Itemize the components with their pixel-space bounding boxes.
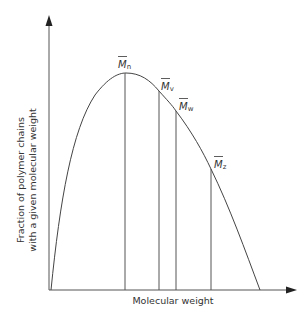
y-axis (46, 15, 53, 290)
mz-label: Mz (214, 157, 227, 172)
x-axis-arrow-icon (286, 287, 297, 294)
mn-label: Mn (118, 57, 131, 72)
svg-text:Mz: Mz (214, 159, 227, 171)
molecular-weight-distribution-diagram: Mn Mv Mw Mz Molecular weight Fraction of… (0, 0, 307, 319)
x-axis-label: Molecular weight (132, 295, 213, 306)
mw-label: Mw (179, 99, 194, 114)
mv-label: Mv (161, 79, 174, 94)
svg-text:Mn: Mn (118, 59, 131, 71)
y-axis-label-line2: with a given molecular weight (27, 108, 38, 252)
y-axis-label-line1: Fraction of polymer chains (15, 117, 26, 243)
y-axis-arrow-icon (46, 15, 53, 26)
distribution-curve (51, 73, 260, 290)
svg-text:Mw: Mw (179, 101, 194, 113)
svg-text:Mv: Mv (161, 81, 174, 93)
